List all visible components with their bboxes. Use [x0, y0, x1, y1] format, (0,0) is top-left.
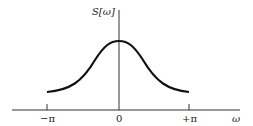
- tick-label-plus-pi: +π: [182, 114, 197, 124]
- tick-label-zero: 0: [116, 114, 122, 124]
- y-axis-label: S[ω]: [92, 7, 115, 17]
- tick-label-minus-pi: −π: [40, 114, 55, 124]
- spectral-density-curve: [47, 41, 189, 92]
- spectrum-plot: [0, 0, 253, 126]
- x-axis-label: ω: [232, 114, 240, 124]
